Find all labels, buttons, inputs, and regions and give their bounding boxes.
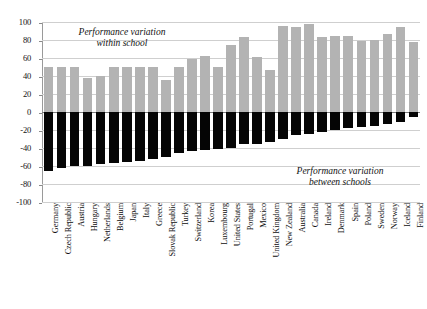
y-tick-label-40: 40 xyxy=(0,72,31,81)
bar-positive[interactable] xyxy=(83,78,93,112)
bar-positive[interactable] xyxy=(278,26,288,112)
bar-negative[interactable] xyxy=(343,112,353,128)
bar-slot[interactable] xyxy=(174,22,184,202)
category-label: Ireland xyxy=(325,203,333,226)
bar-positive[interactable] xyxy=(343,36,353,112)
bar-positive[interactable] xyxy=(239,37,249,112)
category-label: Finland xyxy=(417,203,425,228)
bar-negative[interactable] xyxy=(291,112,301,135)
bar-slot[interactable] xyxy=(109,22,119,202)
bar-slot[interactable] xyxy=(96,22,106,202)
bar-positive[interactable] xyxy=(304,24,314,112)
category-label: Hungary xyxy=(91,203,99,231)
bar-slot[interactable] xyxy=(213,22,223,202)
bar-slot[interactable] xyxy=(83,22,93,202)
bar-negative[interactable] xyxy=(213,112,223,149)
bar-positive[interactable] xyxy=(226,45,236,112)
y-tick-label-100: 100 xyxy=(0,18,31,27)
annotation-between-schools: Performance variation between schools xyxy=(272,166,408,188)
bar-negative[interactable] xyxy=(265,112,275,142)
bar-positive[interactable] xyxy=(161,80,171,112)
bar-negative[interactable] xyxy=(357,112,367,127)
bar-positive[interactable] xyxy=(252,57,262,112)
bar-slot[interactable] xyxy=(161,22,171,202)
bar-negative[interactable] xyxy=(370,112,380,126)
category-label: Austria xyxy=(78,203,86,227)
bar-positive[interactable] xyxy=(44,67,54,112)
bar-negative[interactable] xyxy=(239,112,249,144)
category-label: Italy xyxy=(143,203,151,218)
bar-slot[interactable] xyxy=(252,22,262,202)
bar-negative[interactable] xyxy=(109,112,119,163)
category-label: Korea xyxy=(208,203,216,223)
bar-positive[interactable] xyxy=(357,41,367,112)
bar-negative[interactable] xyxy=(122,112,132,162)
bar-slot[interactable] xyxy=(135,22,145,202)
bar-slot[interactable] xyxy=(148,22,158,202)
bar-negative[interactable] xyxy=(96,112,106,164)
bar-positive[interactable] xyxy=(396,27,406,112)
category-label: Iceland xyxy=(404,203,412,227)
bar-positive[interactable] xyxy=(200,56,210,112)
bar-negative[interactable] xyxy=(330,112,340,130)
category-label: Germany xyxy=(52,203,60,233)
bar-negative[interactable] xyxy=(187,112,197,151)
bar-positive[interactable] xyxy=(409,42,419,112)
bar-negative[interactable] xyxy=(57,112,67,168)
y-tick-label-0: 0 xyxy=(0,108,31,117)
y-tick-label--20: -20 xyxy=(0,126,31,135)
category-label: Norway xyxy=(391,203,399,229)
bar-negative[interactable] xyxy=(83,112,93,166)
bar-positive[interactable] xyxy=(317,37,327,112)
bar-negative[interactable] xyxy=(161,112,171,157)
bar-positive[interactable] xyxy=(383,34,393,112)
bar-slot[interactable] xyxy=(70,22,80,202)
y-tick-label--100: -100 xyxy=(0,198,31,207)
bar-slot[interactable] xyxy=(44,22,54,202)
bar-positive[interactable] xyxy=(265,70,275,112)
bar-positive[interactable] xyxy=(70,67,80,112)
bar-negative[interactable] xyxy=(174,112,184,153)
category-label: United Kingdom xyxy=(273,203,281,258)
bar-positive[interactable] xyxy=(109,67,119,112)
bar-negative[interactable] xyxy=(226,112,236,148)
bar-negative[interactable] xyxy=(396,112,406,122)
bar-negative[interactable] xyxy=(200,112,210,150)
bar-positive[interactable] xyxy=(213,67,223,112)
bar-positive[interactable] xyxy=(370,40,380,112)
category-label: Czech Republic xyxy=(65,203,73,254)
bar-slot[interactable] xyxy=(409,22,419,202)
annotation-within-school: Performance variation within school xyxy=(62,27,182,49)
bar-negative[interactable] xyxy=(383,112,393,124)
bar-slot[interactable] xyxy=(122,22,132,202)
bar-slot[interactable] xyxy=(239,22,249,202)
bar-positive[interactable] xyxy=(122,67,132,112)
bar-positive[interactable] xyxy=(187,59,197,112)
category-label: Mexico xyxy=(260,203,268,228)
bar-slot[interactable] xyxy=(200,22,210,202)
bar-negative[interactable] xyxy=(252,112,262,144)
bar-positive[interactable] xyxy=(174,67,184,112)
bar-negative[interactable] xyxy=(70,112,80,166)
category-label: Greece xyxy=(156,203,164,226)
bar-positive[interactable] xyxy=(57,67,67,112)
bar-negative[interactable] xyxy=(278,112,288,139)
category-label: Australia xyxy=(299,203,307,233)
category-label: Canada xyxy=(312,203,320,227)
bar-positive[interactable] xyxy=(148,67,158,112)
bar-negative[interactable] xyxy=(148,112,158,159)
bar-negative[interactable] xyxy=(44,112,54,171)
bar-negative[interactable] xyxy=(317,112,327,132)
bar-positive[interactable] xyxy=(135,67,145,112)
bar-negative[interactable] xyxy=(409,112,419,117)
bar-slot[interactable] xyxy=(57,22,67,202)
bar-slot[interactable] xyxy=(226,22,236,202)
bar-positive[interactable] xyxy=(330,36,340,113)
bar-positive[interactable] xyxy=(96,76,106,112)
y-tick-label--80: -80 xyxy=(0,180,31,189)
bar-negative[interactable] xyxy=(304,112,314,134)
bar-slot[interactable] xyxy=(187,22,197,202)
bar-negative[interactable] xyxy=(135,112,145,161)
bar-positive[interactable] xyxy=(291,27,301,112)
category-label: Belgium xyxy=(117,203,125,231)
